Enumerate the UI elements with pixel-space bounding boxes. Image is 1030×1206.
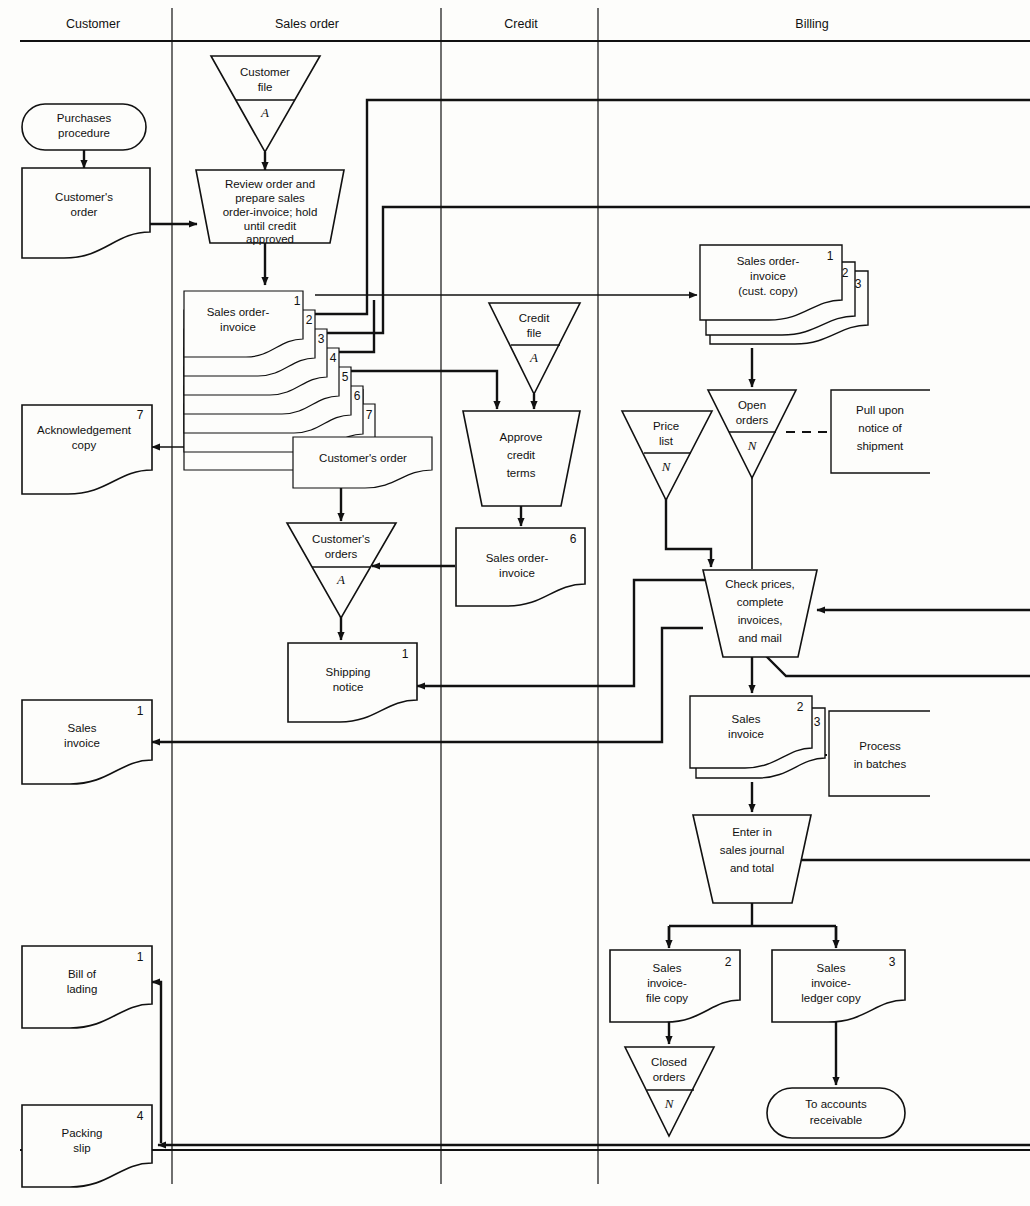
sales-invoice-customer-line1: Sales xyxy=(68,722,97,734)
sales-invoice-file-copy-line2: invoice- xyxy=(647,977,687,989)
process-in-batches-line1: Process xyxy=(859,740,901,752)
customers-order-line2: order xyxy=(71,206,98,218)
review-order-line5: approved xyxy=(246,233,294,245)
open-orders-code: N xyxy=(747,438,758,453)
sales-invoice-stack-line1: Sales xyxy=(732,713,761,725)
soi-cust-copy-line2: invoice xyxy=(750,270,786,282)
node-check-prices[interactable]: Check prices, complete invoices, and mai… xyxy=(703,570,817,657)
approve-credit-line3: terms xyxy=(507,467,536,479)
node-customer-file[interactable]: Customer file A xyxy=(211,56,320,152)
soi-cust-copy-num-1: 1 xyxy=(827,249,834,263)
soi-cust-copy-line1: Sales order- xyxy=(737,255,800,267)
customers-orders-file-line2: orders xyxy=(325,548,358,560)
sales-invoice-file-copy-line1: Sales xyxy=(653,962,682,974)
review-order-line4: until credit xyxy=(244,220,297,232)
column-header-customer: Customer xyxy=(66,17,120,31)
conn-check-to-right xyxy=(766,656,1030,676)
node-customers-order-copy[interactable]: Customer's order xyxy=(293,437,432,488)
node-sales-invoice-ledger-copy[interactable]: 3 Sales invoice- ledger copy xyxy=(772,950,905,1022)
price-list-line2: list xyxy=(659,435,674,447)
sales-invoice-customer-line2: invoice xyxy=(64,737,100,749)
node-open-orders[interactable]: Open orders N xyxy=(708,390,796,478)
purchases-procedure-line1: Purchases xyxy=(57,112,112,124)
approve-credit-line1: Approve xyxy=(500,431,543,443)
customer-file-line2: file xyxy=(258,81,273,93)
node-price-list[interactable]: Price list N xyxy=(622,411,712,500)
soi-cust-copy-num-3: 3 xyxy=(855,277,862,291)
sales-invoice-file-copy-line3: file copy xyxy=(646,992,688,1004)
soi-copy-num-6: 6 xyxy=(354,389,361,403)
node-acknowledgement-copy[interactable]: 7 Acknowledgement copy xyxy=(22,405,152,494)
packing-slip-num: 4 xyxy=(137,1109,144,1123)
customers-orders-file-code: A xyxy=(336,572,345,587)
bill-of-lading-line1: Bill of xyxy=(68,968,97,980)
sales-invoice-file-copy-num: 2 xyxy=(725,955,732,969)
node-credit-file[interactable]: Credit file A xyxy=(489,303,580,394)
sales-invoice-stack-num-3: 3 xyxy=(814,715,821,729)
closed-orders-code: N xyxy=(664,1096,675,1111)
node-closed-orders[interactable]: Closed orders N xyxy=(625,1047,714,1136)
node-sales-invoice-stack[interactable]: Sales invoice 2 3 xyxy=(690,696,825,778)
customers-order-copy-label: Customer's order xyxy=(319,452,407,464)
node-sales-invoice-customer[interactable]: 1 Sales invoice xyxy=(22,700,152,784)
conn-bottom-to-billoflading xyxy=(152,982,161,1143)
sales-invoice-ledger-copy-num: 3 xyxy=(889,955,896,969)
sales-invoice-ledger-copy-line2: invoice- xyxy=(811,977,851,989)
customer-file-line1: Customer xyxy=(240,66,290,78)
sales-invoice-customer-num: 1 xyxy=(137,704,144,718)
node-bill-of-lading[interactable]: 1 Bill of lading xyxy=(22,946,152,1028)
bill-of-lading-num: 1 xyxy=(137,950,144,964)
node-process-in-batches: Process in batches xyxy=(829,711,930,796)
open-orders-line1: Open xyxy=(738,399,766,411)
node-enter-sales-journal[interactable]: Enter in sales journal and total xyxy=(693,815,811,903)
node-to-accounts-receivable[interactable]: To accounts receivable xyxy=(767,1088,905,1138)
conn-copy5-to-approve xyxy=(351,371,497,409)
soi6-line2: invoice xyxy=(499,567,535,579)
soi-copy-num-2: 2 xyxy=(306,313,313,327)
closed-orders-line2: orders xyxy=(653,1071,686,1083)
node-approve-credit-terms[interactable]: Approve credit terms xyxy=(463,411,580,506)
process-in-batches-line2: in batches xyxy=(854,758,907,770)
conn-pricelist-to-check xyxy=(666,497,711,567)
approve-credit-line2: credit xyxy=(507,449,536,461)
node-shipping-notice[interactable]: 1 Shipping notice xyxy=(288,643,417,722)
to-accounts-receivable-line2: receivable xyxy=(810,1114,862,1126)
check-prices-line2: complete xyxy=(737,596,784,608)
enter-journal-line1: Enter in xyxy=(732,826,772,838)
sales-invoice-stack-line2: invoice xyxy=(728,728,764,740)
price-list-code: N xyxy=(661,459,672,474)
column-header-billing: Billing xyxy=(795,17,828,31)
shipping-notice-line2: notice xyxy=(333,681,364,693)
packing-slip-line1: Packing xyxy=(62,1127,103,1139)
review-order-line3: order-invoice; hold xyxy=(223,206,318,218)
credit-file-line1: Credit xyxy=(519,312,550,324)
check-prices-line3: invoices, xyxy=(738,614,783,626)
pull-upon-notice-line1: Pull upon xyxy=(856,404,904,416)
review-order-line2: prepare sales xyxy=(235,192,305,204)
open-orders-line2: orders xyxy=(736,414,769,426)
acknowledgement-copy-num: 7 xyxy=(137,408,144,422)
soi-copy-num-4: 4 xyxy=(330,351,337,365)
soi-copy-num-7: 7 xyxy=(366,408,373,422)
shipping-notice-num: 1 xyxy=(402,647,409,661)
node-pull-upon-notice: Pull upon notice of shipment xyxy=(831,390,930,473)
node-sales-order-invoice-6[interactable]: 6 Sales order- invoice xyxy=(456,528,585,606)
node-customers-order[interactable]: Customer's order xyxy=(22,168,150,258)
conn-enter-split xyxy=(669,903,836,945)
node-sales-invoice-file-copy[interactable]: 2 Sales invoice- file copy xyxy=(610,950,740,1022)
pull-upon-notice-line2: notice of xyxy=(858,422,902,434)
soi6-line1: Sales order- xyxy=(486,552,549,564)
node-packing-slip[interactable]: 4 Packing slip xyxy=(22,1105,152,1187)
node-review-order[interactable]: Review order and prepare sales order-inv… xyxy=(196,170,344,245)
column-headers: Customer Sales order Credit Billing xyxy=(66,17,829,31)
credit-file-code: A xyxy=(529,350,538,365)
sales-invoice-ledger-copy-line1: Sales xyxy=(817,962,846,974)
flowchart-canvas: Customer Sales order Credit Billing xyxy=(0,0,1030,1206)
node-soi-cust-copy-stack[interactable]: Sales order- invoice (cust. copy) 1 2 3 xyxy=(700,245,868,344)
flowchart-svg: Customer Sales order Credit Billing xyxy=(0,0,1030,1206)
soi-stack-line1: Sales order- xyxy=(207,306,270,318)
node-purchases-procedure[interactable]: Purchases procedure xyxy=(22,104,146,150)
node-customers-orders-file[interactable]: Customer's orders A xyxy=(287,523,396,618)
sales-invoice-stack-num-2: 2 xyxy=(797,700,804,714)
check-prices-line1: Check prices, xyxy=(725,578,795,590)
